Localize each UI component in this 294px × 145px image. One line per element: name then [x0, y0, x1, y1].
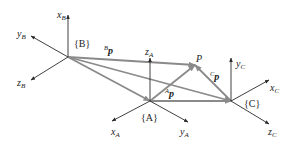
- axis-label-z-B: zB: [16, 77, 26, 90]
- vector-Bp: [68, 57, 195, 65]
- frame-connectors: [68, 57, 231, 101]
- frame-label: {B}: [74, 38, 90, 49]
- diagram-labels: BpApCpxByBzBzAxAyAyCxCzC{B}{A}{C}P: [16, 9, 279, 139]
- frame-label: {A}: [141, 112, 158, 123]
- axis-label-z-C: zC: [267, 126, 277, 139]
- point-P-label: P: [195, 53, 202, 64]
- coordinate-frames-diagram: BpApCpxByBzBzAxAyAyCxCzC{B}{A}{C}P: [0, 0, 294, 145]
- axis-y-B: [31, 36, 68, 57]
- axis-label-y-C: yC: [235, 58, 245, 71]
- axis-label-x-A: xA: [110, 126, 120, 139]
- axis-label-x-C: xC: [269, 82, 279, 95]
- connector-line: [68, 57, 231, 101]
- axis-z-B: [31, 57, 68, 80]
- frame-label: {C}: [244, 98, 260, 109]
- axis-label-y-B: yB: [16, 28, 26, 41]
- axis-label-y-A: yA: [179, 126, 189, 139]
- vector-label-Bp: Bp: [104, 44, 113, 56]
- axis-label-z-A: zA: [144, 46, 154, 59]
- frame-axes: [31, 15, 269, 124]
- connector-line: [68, 57, 150, 101]
- vector-label-Ap: Ap: [164, 87, 174, 99]
- axis-label-x-B: xB: [56, 9, 66, 22]
